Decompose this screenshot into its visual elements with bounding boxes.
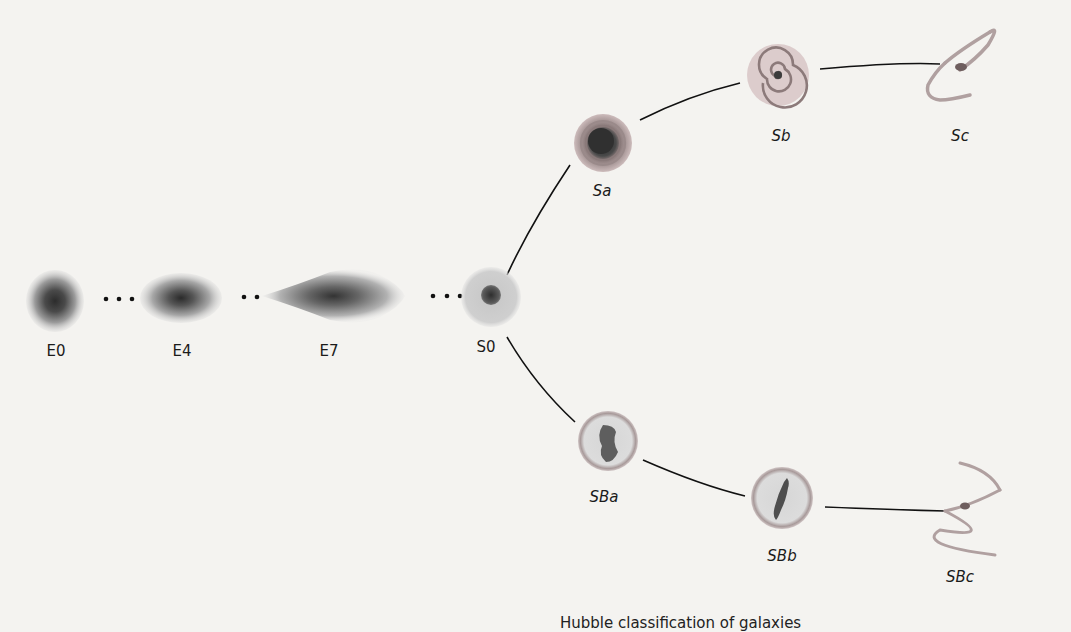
figure-caption: Hubble classification of galaxies — [560, 614, 801, 632]
galaxy-sba-icon — [578, 411, 638, 471]
label-sb: Sb — [771, 127, 790, 145]
connector-sb-sc — [820, 64, 940, 69]
label-sba: SBa — [589, 488, 618, 506]
connector-sbb-sbc — [825, 507, 945, 511]
connector-sba-sbb — [643, 460, 745, 496]
galaxy-s0-icon — [461, 267, 521, 327]
galaxy-sa-icon — [574, 114, 632, 172]
label-sbb: SBb — [767, 547, 796, 565]
connector-s0-sba — [507, 337, 575, 422]
label-sa: Sa — [593, 182, 612, 200]
connector-s0-sa — [507, 165, 570, 275]
label-e0: E0 — [46, 342, 65, 360]
label-sbc: SBc — [946, 568, 974, 586]
galaxy-e7-icon — [262, 270, 405, 323]
label-e4: E4 — [172, 342, 191, 360]
connector-lines — [507, 64, 945, 511]
label-s0: S0 — [476, 338, 495, 356]
label-sc: Sc — [951, 127, 969, 145]
galaxy-sbb-icon — [751, 467, 813, 529]
galaxy-e0-icon — [26, 270, 84, 332]
connector-sa-sb — [640, 83, 740, 120]
galaxy-sc-icon — [928, 30, 995, 100]
galaxy-sb-icon — [747, 44, 809, 107]
label-e7: E7 — [319, 342, 338, 360]
galaxy-sbc-icon — [934, 463, 1000, 555]
galaxy-e4-icon — [140, 273, 222, 323]
